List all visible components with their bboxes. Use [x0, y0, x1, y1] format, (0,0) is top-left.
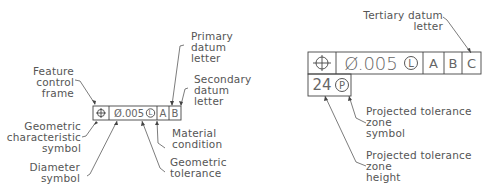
label-geometric-tolerance: Geometric tolerance — [170, 157, 227, 179]
right-datum-a: A — [423, 52, 444, 74]
left-tolerance-value: Ø.005 — [109, 106, 149, 120]
label-diameter-symbol: Diameter symbol — [20, 162, 80, 184]
right-datum-c: C — [462, 52, 481, 74]
right-datum-b: B — [444, 52, 462, 74]
label-geometric-characteristic-symbol: Geometric characteristic symbol — [0, 121, 81, 154]
label-tertiary-datum-letter: Tertiary datum letter — [360, 10, 443, 32]
label-feature-control-frame: Feature control frame — [20, 66, 74, 99]
projected-zone-symbol: P — [336, 79, 348, 91]
projected-height-value: 24 — [309, 74, 335, 96]
label-projected-tolerance-zone-height: Projected tolerance zone height — [366, 150, 472, 183]
left-material-modifier: L — [146, 108, 155, 118]
right-material-modifier: L — [405, 57, 417, 69]
right-tolerance-value: Ø.005 — [337, 52, 405, 74]
label-secondary-datum-letter: Secondary datum letter — [194, 74, 251, 107]
left-datum-a: A — [157, 106, 169, 120]
label-primary-datum-letter: Primary datum letter — [191, 31, 233, 64]
label-material-condition: Material condition — [172, 128, 222, 150]
label-projected-tolerance-zone-symbol: Projected tolerance zone symbol — [366, 106, 472, 139]
left-datum-b: B — [169, 106, 181, 120]
leader-lines-right — [325, 17, 471, 166]
